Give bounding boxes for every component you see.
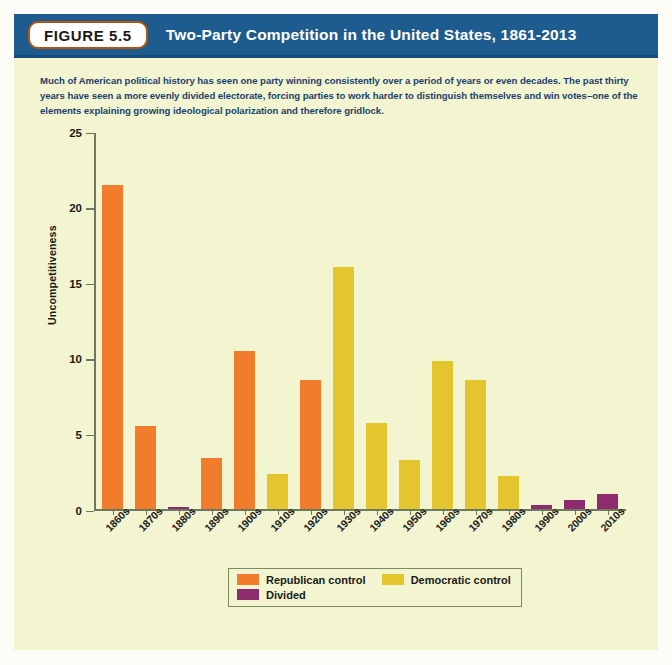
- x-label-slot: 1910s: [261, 513, 294, 573]
- x-label-slot: 1980s: [492, 513, 525, 573]
- bar-slot: [96, 133, 129, 510]
- figure-body-panel: Much of American political history has s…: [14, 58, 658, 650]
- figure-caption: Much of American political history has s…: [40, 74, 638, 119]
- y-tick-label: 5: [76, 429, 82, 441]
- bar[interactable]: [234, 351, 254, 509]
- y-tick-label: 0: [76, 505, 82, 517]
- figure-title: Two-Party Competition in the United Stat…: [166, 26, 577, 44]
- bar-slot: [360, 133, 393, 510]
- bar-slot: [393, 133, 426, 510]
- legend-swatch-divided: [237, 589, 259, 600]
- x-label-slot: 1930s: [327, 513, 360, 573]
- bar-slot: [459, 133, 492, 510]
- y-tick-mark: [86, 284, 94, 286]
- bar[interactable]: [399, 460, 419, 509]
- x-label-slot: 1940s: [360, 513, 393, 573]
- bar-slot: [327, 133, 360, 510]
- legend-swatch-democratic: [382, 574, 404, 585]
- x-label-slot: 1970s: [459, 513, 492, 573]
- bar[interactable]: [498, 476, 518, 509]
- figure-container: FIGURE 5.5 Two-Party Competition in the …: [0, 0, 672, 665]
- chart-plot-area: Uncompetitiveness 0510152025 1860s1870s1…: [32, 125, 640, 595]
- legend-swatch-republican: [237, 574, 259, 585]
- bar-slot: [558, 133, 591, 510]
- bar[interactable]: [333, 267, 353, 509]
- x-label-slot: 2010s: [591, 513, 624, 573]
- x-label-slot: 1990s: [525, 513, 558, 573]
- figure-number-badge: FIGURE 5.5: [28, 21, 148, 49]
- bar-slot: [525, 133, 558, 510]
- bar[interactable]: [267, 474, 287, 509]
- bar[interactable]: [102, 185, 122, 509]
- x-label-slot: 2000s: [558, 513, 591, 573]
- bar-slot: [195, 133, 228, 510]
- legend-item-democratic: Democratic control: [382, 574, 511, 586]
- x-label-slot: 1960s: [426, 513, 459, 573]
- bar-slot: [294, 133, 327, 510]
- x-label-slot: 1880s: [162, 513, 195, 573]
- bar-slot: [492, 133, 525, 510]
- y-tick-label: 15: [69, 278, 82, 290]
- chart-axes: 0510152025: [94, 133, 626, 511]
- x-label-slot: 1870s: [129, 513, 162, 573]
- legend-item-divided: Divided: [237, 589, 366, 601]
- y-axis-label: Uncompetitiveness: [46, 225, 58, 325]
- y-tick-label: 20: [69, 202, 82, 214]
- x-axis-labels: 1860s1870s1880s1890s1900s1910s1920s1930s…: [96, 513, 624, 573]
- bar[interactable]: [201, 458, 221, 509]
- legend-label-democratic: Democratic control: [411, 574, 511, 586]
- legend-label-republican: Republican control: [266, 574, 366, 586]
- legend-label-divided: Divided: [266, 589, 306, 601]
- x-label-slot: 1860s: [96, 513, 129, 573]
- bar[interactable]: [432, 361, 452, 509]
- y-tick-mark: [86, 359, 94, 361]
- bar[interactable]: [465, 380, 485, 510]
- bar[interactable]: [300, 380, 320, 510]
- bar-slot: [162, 133, 195, 510]
- y-tick-mark: [86, 208, 94, 210]
- x-label-slot: 1950s: [393, 513, 426, 573]
- bar-slot: [261, 133, 294, 510]
- x-label-slot: 1890s: [195, 513, 228, 573]
- y-tick-mark: [86, 511, 94, 513]
- chart-legend: Republican control Democratic control Di…: [228, 568, 522, 607]
- bar[interactable]: [366, 423, 386, 509]
- bar-series-container: [96, 133, 624, 510]
- bar-slot: [129, 133, 162, 510]
- legend-item-republican: Republican control: [237, 574, 366, 586]
- figure-header: FIGURE 5.5 Two-Party Competition in the …: [14, 14, 658, 58]
- bar-slot: [228, 133, 261, 510]
- bar-slot: [591, 133, 624, 510]
- y-tick-mark: [86, 435, 94, 437]
- bar-slot: [426, 133, 459, 510]
- x-label-slot: 1920s: [294, 513, 327, 573]
- y-tick-label: 25: [69, 127, 82, 139]
- y-tick-mark: [86, 133, 94, 135]
- x-label-slot: 1900s: [228, 513, 261, 573]
- bar[interactable]: [135, 426, 155, 509]
- y-tick-label: 10: [69, 353, 82, 365]
